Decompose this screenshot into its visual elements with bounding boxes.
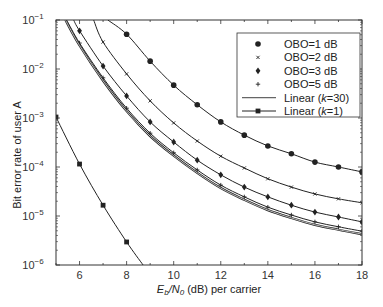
legend-label: OBO=3 dB bbox=[284, 65, 338, 77]
x-axis-label: Eb/N0 (dB) per carrier bbox=[157, 283, 262, 297]
x-tick-label: 12 bbox=[215, 269, 227, 281]
data-point bbox=[313, 209, 318, 216]
data-point bbox=[289, 151, 295, 157]
data-point bbox=[312, 159, 318, 165]
legend-label: OBO=5 dB bbox=[284, 78, 338, 90]
x-tick-label: 6 bbox=[76, 269, 82, 281]
data-point bbox=[219, 155, 222, 158]
data-point bbox=[336, 214, 341, 221]
x-tick-label: 16 bbox=[309, 269, 321, 281]
data-point bbox=[147, 58, 153, 64]
data-point bbox=[265, 143, 271, 149]
data-point bbox=[336, 164, 342, 170]
x-tick-label: 10 bbox=[168, 269, 180, 281]
legend-marker bbox=[256, 109, 261, 114]
y-tick-label: 10−3 bbox=[22, 110, 44, 124]
y-tick-label: 10−4 bbox=[22, 159, 44, 173]
data-point bbox=[77, 162, 82, 167]
data-point bbox=[195, 157, 200, 164]
data-point bbox=[218, 171, 223, 178]
data-point bbox=[124, 31, 130, 37]
data-point bbox=[265, 193, 270, 200]
data-point bbox=[242, 184, 247, 191]
data-point bbox=[218, 119, 224, 125]
data-point bbox=[171, 139, 176, 146]
x-tick-label: 18 bbox=[356, 269, 368, 281]
data-point bbox=[196, 139, 199, 142]
y-tick-label: 10−6 bbox=[22, 257, 44, 271]
ber-chart: 68101214161810−110−210−310−410−510−6 Bit… bbox=[0, 0, 383, 307]
y-axis-label: Bit error rate of user A bbox=[11, 101, 23, 209]
data-point bbox=[242, 132, 248, 138]
data-point bbox=[172, 121, 175, 124]
series-linear-k-1 bbox=[54, 115, 143, 265]
x-tick-label: 14 bbox=[262, 269, 274, 281]
data-point bbox=[148, 119, 153, 126]
data-point bbox=[101, 203, 106, 208]
y-tick-label: 10−1 bbox=[22, 12, 44, 26]
data-point bbox=[289, 202, 294, 209]
data-point bbox=[124, 240, 129, 245]
legend-label: OBO=1 dB bbox=[284, 38, 338, 50]
legend: OBO=1 dBOBO=2 dBOBO=3 dBOBO=5 dBLinear (… bbox=[237, 33, 360, 117]
data-point bbox=[125, 72, 128, 75]
legend-label: Linear (k=1) bbox=[284, 105, 343, 117]
y-tick-label: 10−5 bbox=[22, 208, 44, 222]
series-line bbox=[56, 117, 143, 265]
x-tick-label: 8 bbox=[124, 269, 130, 281]
legend-marker bbox=[255, 41, 261, 47]
legend-label: OBO=2 dB bbox=[284, 51, 338, 63]
legend-label: Linear (k=30) bbox=[284, 92, 349, 104]
y-tick-label: 10−2 bbox=[22, 61, 44, 75]
data-point bbox=[194, 102, 200, 108]
data-point bbox=[101, 40, 104, 43]
data-point bbox=[149, 99, 152, 102]
data-point bbox=[171, 82, 177, 88]
